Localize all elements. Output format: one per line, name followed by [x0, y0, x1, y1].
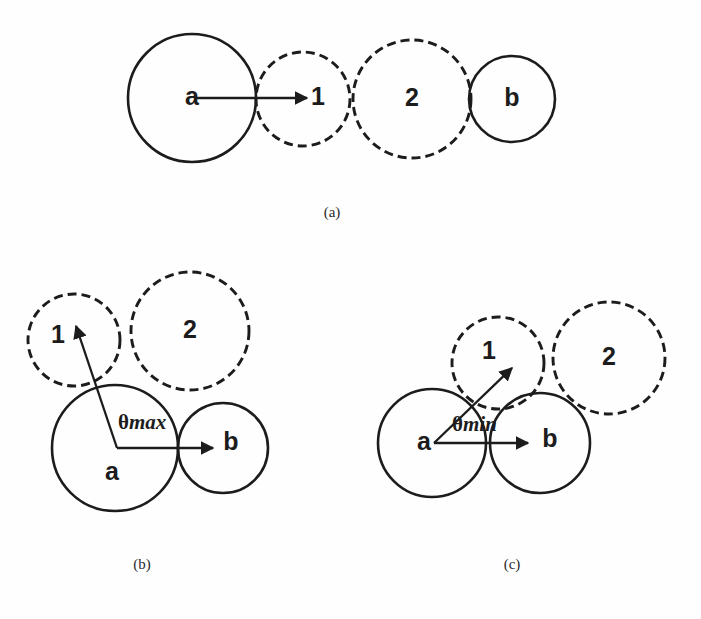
- label-b-a: a: [105, 457, 120, 485]
- angle-subscript: min: [463, 412, 497, 436]
- panel-caption-a: (a): [324, 204, 341, 221]
- label-a-a: a: [185, 82, 200, 110]
- label-b-1: 1: [51, 320, 65, 348]
- label-c-1: 1: [482, 336, 496, 364]
- theta-glyph: θ: [452, 412, 463, 436]
- figure-root: a12b(a)12abθmax(b)12abθmin(c): [0, 0, 701, 619]
- angle-label-c: θmin: [452, 412, 497, 436]
- label-a-b: b: [504, 83, 519, 111]
- panel-caption-b: (b): [133, 556, 151, 573]
- label-c-b: b: [542, 424, 557, 452]
- label-c-2: 2: [602, 342, 616, 370]
- angle-subscript: max: [129, 410, 166, 434]
- label-c-a: a: [417, 427, 432, 455]
- theta-glyph: θ: [118, 410, 129, 434]
- geometry-figure: a12b(a)12abθmax(b)12abθmin(c): [0, 0, 701, 619]
- label-b-b: b: [223, 427, 238, 455]
- label-a-2: 2: [405, 83, 419, 111]
- angle-label-b: θmax: [118, 410, 166, 434]
- label-b-2: 2: [183, 315, 197, 343]
- panel-caption-c: (c): [504, 556, 521, 573]
- label-a-1: 1: [311, 82, 325, 110]
